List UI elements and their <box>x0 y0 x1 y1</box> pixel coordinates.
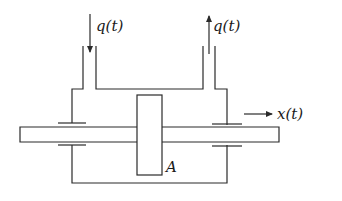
piston-rod <box>20 127 279 142</box>
piston-a <box>137 95 162 175</box>
right-pipe-outer-wall <box>215 46 227 125</box>
left-pipe-outer-wall <box>72 46 83 123</box>
bottom-wall <box>72 145 227 183</box>
outflow-label: q(t) <box>213 17 240 35</box>
piston-label: A <box>164 158 177 176</box>
displacement-label: x(t) <box>277 105 303 123</box>
top-wall <box>96 46 203 89</box>
piston-diagram: q(t) q(t) x(t) A <box>0 0 342 201</box>
rod-right <box>162 127 279 142</box>
inflow-label: q(t) <box>96 17 123 35</box>
cylinder-housing <box>72 46 227 183</box>
rod-left <box>20 127 137 142</box>
